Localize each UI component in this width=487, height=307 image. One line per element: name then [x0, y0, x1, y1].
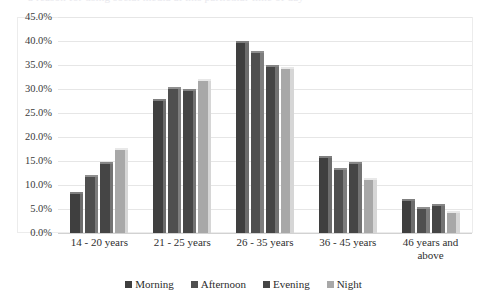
bar-cap — [236, 41, 249, 43]
bar-cap — [153, 99, 166, 101]
y-axis-tick-label: 45.0% — [25, 12, 52, 23]
y-axis-tick-label: 30.0% — [25, 84, 52, 95]
bar[interactable] — [417, 207, 430, 233]
chart-legend: MorningAfternoonEveningNight — [0, 278, 487, 290]
bar[interactable] — [198, 79, 211, 233]
bar-highlight — [178, 87, 182, 233]
legend-swatch-icon — [327, 281, 334, 288]
bar[interactable] — [153, 99, 166, 233]
bar-cap — [319, 156, 332, 158]
legend-swatch-icon — [125, 281, 132, 288]
clipped-caption-text: a reason for using social media at this … — [28, 0, 304, 3]
bar-highlight — [426, 207, 430, 233]
x-axis-category-label: 36 - 45 years — [306, 236, 389, 261]
bar-group — [306, 17, 389, 233]
legend-label: Night — [337, 278, 362, 290]
bar-cap — [251, 51, 264, 53]
bar-highlight — [80, 192, 84, 233]
y-axis-labels: 45.0%40.0%35.0%30.0%25.0%20.0%15.0%10.0%… — [0, 17, 56, 233]
bar[interactable] — [334, 168, 347, 233]
bar-highlight — [441, 204, 445, 233]
y-axis-tick-label: 20.0% — [25, 132, 52, 143]
bar-cap — [70, 192, 83, 194]
bar-cap — [417, 207, 430, 209]
legend-item[interactable]: Night — [327, 278, 362, 290]
bar[interactable] — [364, 178, 377, 233]
bar[interactable] — [70, 192, 83, 233]
bar-highlight — [328, 156, 332, 233]
bar-highlight — [245, 41, 249, 233]
y-axis-tick-label: 35.0% — [25, 60, 52, 71]
bar[interactable] — [168, 87, 181, 233]
bar-cap — [266, 65, 279, 67]
bar[interactable] — [349, 162, 362, 233]
bar-highlight — [358, 162, 362, 233]
bar-group — [389, 17, 472, 233]
bar-cap — [85, 175, 98, 177]
bar-cap — [100, 162, 113, 164]
axis-baseline — [58, 233, 472, 234]
bar[interactable] — [319, 156, 332, 233]
bar-group — [141, 17, 224, 233]
bar-highlight — [95, 175, 99, 233]
legend-item[interactable]: Afternoon — [191, 278, 246, 290]
bar[interactable] — [236, 41, 249, 233]
bar-cap — [183, 89, 196, 91]
bar-groups — [58, 17, 472, 233]
bar-cap — [115, 148, 128, 150]
bar-highlight — [343, 168, 347, 233]
bar[interactable] — [402, 199, 415, 233]
bar-highlight — [163, 99, 167, 233]
y-axis-tick-label: 15.0% — [25, 156, 52, 167]
y-axis-tick-label: 0.0% — [30, 228, 52, 239]
bar[interactable] — [100, 162, 113, 233]
bar-highlight — [260, 51, 264, 233]
legend-item[interactable]: Morning — [125, 278, 174, 290]
y-axis-tick-label: 10.0% — [25, 180, 52, 191]
x-axis-labels: 14 - 20 years21 - 25 years26 - 35 years3… — [58, 236, 472, 261]
bar-cap — [281, 67, 294, 69]
bar-cap — [447, 211, 460, 213]
bar-cap — [402, 199, 415, 201]
bar[interactable] — [183, 89, 196, 233]
bar-group — [224, 17, 307, 233]
bar-cap — [349, 162, 362, 164]
bar-highlight — [411, 199, 415, 233]
y-axis-tick-label: 5.0% — [30, 204, 52, 215]
bar[interactable] — [251, 51, 264, 233]
bar-highlight — [208, 79, 212, 233]
x-axis-category-label: 46 years and above — [389, 236, 472, 261]
bar-cap — [334, 168, 347, 170]
legend-label: Afternoon — [201, 278, 246, 290]
bar-highlight — [275, 65, 279, 233]
bar[interactable] — [432, 204, 445, 233]
bar-highlight — [456, 211, 460, 233]
clipped-caption-strip: a reason for using social media at this … — [0, 0, 487, 13]
x-axis-category-label: 14 - 20 years — [58, 236, 141, 261]
bar[interactable] — [85, 175, 98, 233]
bar-cap — [198, 79, 211, 81]
bar-group — [58, 17, 141, 233]
x-axis-category-label: 21 - 25 years — [141, 236, 224, 261]
bar[interactable] — [447, 211, 460, 233]
bar-highlight — [193, 89, 197, 233]
legend-swatch-icon — [191, 281, 198, 288]
bar-highlight — [125, 148, 129, 233]
bar-cap — [364, 178, 377, 180]
legend-label: Evening — [273, 278, 310, 290]
bar-cap — [432, 204, 445, 206]
bar-highlight — [290, 67, 294, 233]
bar-cap — [168, 87, 181, 89]
x-axis-category-label: 26 - 35 years — [224, 236, 307, 261]
plot-area — [58, 17, 472, 233]
bar-chart: a reason for using social media at this … — [0, 0, 487, 307]
bar[interactable] — [266, 65, 279, 233]
legend-swatch-icon — [263, 281, 270, 288]
bar-highlight — [110, 162, 114, 233]
bar-highlight — [373, 178, 377, 233]
legend-item[interactable]: Evening — [263, 278, 310, 290]
bar[interactable] — [115, 148, 128, 233]
bar[interactable] — [281, 67, 294, 233]
legend-label: Morning — [135, 278, 174, 290]
y-axis-tick-label: 40.0% — [25, 36, 52, 47]
